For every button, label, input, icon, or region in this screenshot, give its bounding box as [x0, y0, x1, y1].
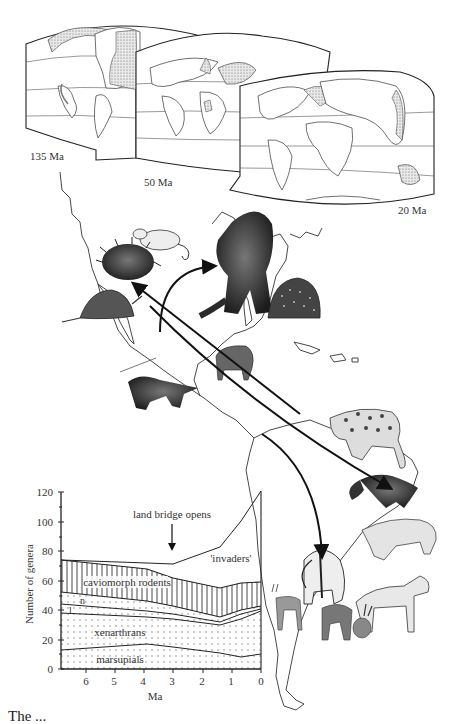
x-tick-6: 6: [83, 675, 89, 687]
y-tick-80: 80: [42, 545, 54, 557]
armadillo-illustration: [62, 290, 142, 322]
y-tick-0: 0: [48, 663, 54, 675]
y-tick-100: 100: [37, 516, 54, 528]
mastodon-illustration: [302, 550, 344, 604]
caviomorph-label: caviomorph rodents: [83, 576, 171, 588]
sabre-tooth-cat-illustration: [362, 519, 436, 560]
x-tick-3: 3: [169, 675, 175, 687]
ground-sloth-illustration: [200, 211, 273, 316]
x-tick-4: 4: [140, 675, 146, 687]
deer-illustration: [272, 584, 302, 630]
x-axis-label: Ma: [148, 690, 163, 702]
map-20ma: [230, 71, 434, 204]
x-tick-1: 1: [228, 675, 234, 687]
arrow-to-mastodon: [262, 434, 322, 556]
arrow-to-sloth: [160, 266, 214, 332]
y-tick-120: 120: [37, 486, 54, 498]
raccoon-illustration: [349, 475, 418, 508]
x-tick-0: 0: [258, 675, 264, 687]
y-tick-40: 40: [42, 604, 54, 616]
marsupials-label: marsupials: [96, 653, 144, 665]
xenarthrans-label: xenarthrans: [94, 626, 145, 638]
wolf-illustration: [322, 604, 352, 640]
y-axis-label: Number of genera: [23, 544, 35, 624]
y-tick-60: 60: [42, 575, 54, 587]
glyptodont-illustration: [268, 278, 320, 318]
map-label-20ma: 20 Ma: [398, 204, 427, 216]
map-label-50ma: 50 Ma: [144, 176, 173, 188]
x-tick-2: 2: [199, 675, 205, 687]
arrow-to-raccoon: [150, 306, 390, 488]
land-bridge-annotation: land bridge opens: [133, 508, 211, 520]
l-band-label: l: [69, 605, 72, 616]
x-tick-5: 5: [111, 675, 117, 687]
invaders-label: 'invaders': [210, 552, 251, 564]
genera-chart: 0 20 40 60 80 100 120 6 5 4 3 2 1 0 Ma N…: [23, 486, 264, 702]
figure-caption-partial: The ...: [8, 709, 458, 724]
y-tick-20: 20: [42, 634, 54, 646]
anteaters-illustration: [120, 358, 198, 410]
map-label-135ma: 135 Ma: [30, 150, 64, 162]
n-band-label: n: [80, 595, 85, 606]
